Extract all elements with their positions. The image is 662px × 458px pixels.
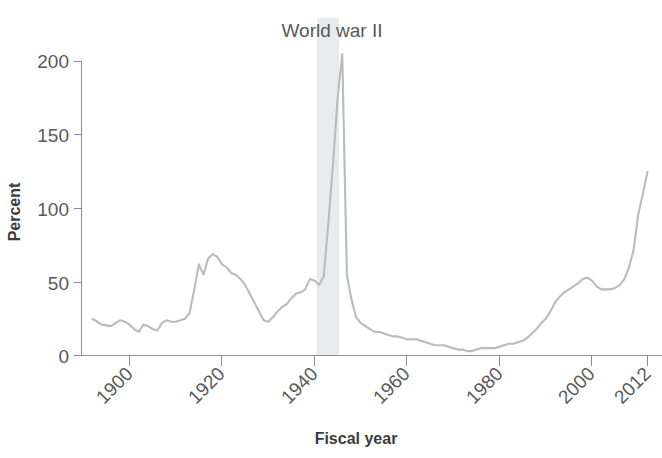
x-tick-label-1980: 1980 [462, 363, 507, 408]
x-tick-label-2000: 2000 [554, 363, 599, 408]
chart-container: World war II 200 150 100 50 0 1900 1920 … [0, 0, 662, 458]
data-series-line [93, 54, 648, 351]
x-tick-label-1940: 1940 [277, 363, 322, 408]
x-axis-title: Fiscal year [315, 430, 398, 447]
x-tick-label-1920: 1920 [184, 363, 229, 408]
y-axis-title: Percent [6, 182, 23, 241]
y-tick-label-100: 100 [37, 199, 69, 220]
x-tick-label-1900: 1900 [92, 363, 137, 408]
wwii-shaded-band [317, 18, 339, 355]
y-tick-label-50: 50 [48, 273, 69, 294]
y-tick-label-200: 200 [37, 51, 69, 72]
line-chart: World war II 200 150 100 50 0 1900 1920 … [0, 0, 662, 458]
y-tick-label-0: 0 [58, 346, 69, 367]
x-tick-label-2012: 2012 [610, 363, 655, 408]
x-tick-label-1960: 1960 [369, 363, 414, 408]
chart-title: World war II [281, 20, 382, 41]
y-tick-label-150: 150 [37, 125, 69, 146]
